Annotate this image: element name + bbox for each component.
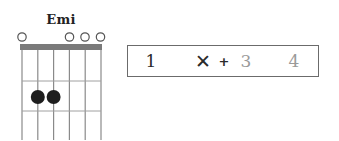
open-string-icon	[96, 33, 104, 41]
open-string-icon	[81, 33, 89, 41]
finger-dot-icon	[47, 90, 61, 104]
chord-grid	[0, 0, 120, 141]
chord-diagram: Emi	[0, 0, 120, 141]
open-string-icon	[65, 33, 73, 41]
open-string-icon	[18, 33, 26, 41]
beat-1: 1	[136, 46, 166, 76]
beat-2-muted-strum-icon: ✕	[188, 46, 218, 76]
nut	[20, 44, 102, 50]
beat-4: 4	[280, 46, 308, 76]
finger-dot-icon	[31, 90, 45, 104]
beat-3: 3	[232, 46, 260, 76]
beat-and: +	[216, 46, 232, 76]
strum-pattern-box: 1 ✕ + 3 4	[127, 45, 319, 77]
